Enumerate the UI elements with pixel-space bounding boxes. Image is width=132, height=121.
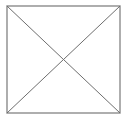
square-with-diagonals-diagram — [0, 0, 132, 121]
figure-container — [0, 0, 132, 121]
